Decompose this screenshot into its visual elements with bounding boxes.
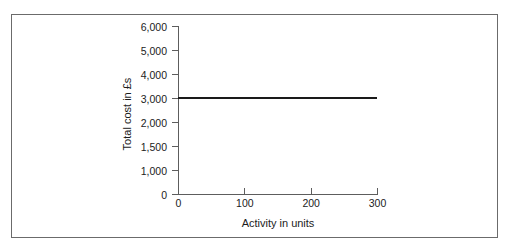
x-tick-label: 0 — [176, 198, 182, 209]
x-tick-label: 300 — [369, 198, 387, 209]
y-tick-label: 1,000 — [141, 165, 167, 176]
y-axis-title: Total cost in £s — [121, 78, 133, 151]
x-tick-label: 200 — [302, 198, 320, 209]
y-tick: 1,500 — [172, 146, 178, 147]
series-line-total-cost — [178, 97, 377, 99]
x-tick: 300 — [377, 188, 378, 194]
y-tick-label: 2,000 — [141, 117, 167, 128]
y-tick-label: 3,000 — [141, 93, 167, 104]
fixed-cost-chart-figure: 6,0005,0004,0003,0002,0001,5001,0000 010… — [0, 0, 506, 250]
y-tick: 1,000 — [172, 170, 178, 171]
x-tick: 0 — [178, 188, 179, 194]
y-tick-label: 0 — [161, 189, 167, 200]
figure-border — [11, 14, 498, 238]
y-tick-label: 5,000 — [141, 45, 167, 56]
y-tick: 2,000 — [172, 122, 178, 123]
y-tick: 6,000 — [172, 26, 178, 27]
y-tick-label: 4,000 — [141, 69, 167, 80]
x-axis-line — [178, 194, 378, 195]
y-tick: 0 — [172, 194, 178, 195]
y-tick-label: 1,500 — [141, 141, 167, 152]
x-axis-title: Activity in units — [178, 217, 378, 229]
y-tick-label: 6,000 — [141, 21, 167, 32]
y-tick: 5,000 — [172, 50, 178, 51]
x-tick-label: 100 — [236, 198, 254, 209]
y-axis-line — [178, 26, 179, 195]
y-tick: 4,000 — [172, 74, 178, 75]
x-tick: 100 — [244, 188, 245, 194]
x-tick: 200 — [311, 188, 312, 194]
